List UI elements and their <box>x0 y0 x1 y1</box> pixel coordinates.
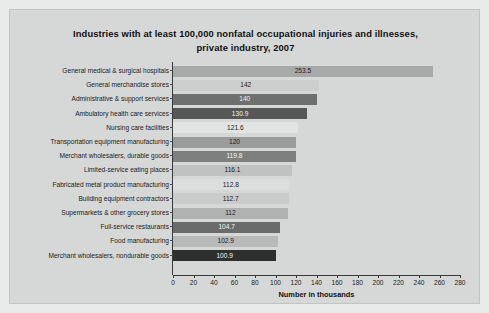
category-label: Full-service restaurants <box>10 220 169 234</box>
category-label: Transportation equipment manufacturing <box>10 135 169 149</box>
chart-bar-row: Transportation equipment manufacturing12… <box>10 135 481 149</box>
chart-bar-row: Nursing care facilities121.6 <box>10 121 481 135</box>
bar-value-label: 121.6 <box>173 121 298 135</box>
category-label: Limited-service eating places <box>10 163 169 177</box>
x-axis-tick-mark <box>235 275 236 278</box>
chart-bar-row: Administrative & support services140 <box>10 92 481 106</box>
x-axis-tick-mark <box>378 275 379 278</box>
x-axis-tick-mark <box>296 275 297 278</box>
bar-value-label: 112.8 <box>173 178 289 192</box>
x-axis-tick-mark <box>337 275 338 278</box>
category-label: Fabricated metal product manufacturing <box>10 178 169 192</box>
bar-value-label: 140 <box>173 92 317 106</box>
category-label: Merchant wholesalers, durable goods <box>10 149 169 163</box>
category-label: Nursing care facilities <box>10 121 169 135</box>
x-axis-tick-mark <box>255 275 256 278</box>
bar-value-label: 100.9 <box>173 249 276 263</box>
chart-title: Industries with at least 100,000 nonfata… <box>10 27 481 54</box>
category-label: Building equipment contractors <box>10 192 169 206</box>
x-axis-tick-mark <box>460 275 461 278</box>
x-axis-tick-mark <box>419 275 420 278</box>
category-label: General merchandise stores <box>10 78 169 92</box>
category-label: Ambulatory health care services <box>10 107 169 121</box>
bar-value-label: 102.9 <box>173 234 278 248</box>
bar-value-label: 119.8 <box>173 149 296 163</box>
x-axis-tick-mark <box>194 275 195 278</box>
chart-title-line-2: private industry, 2007 <box>10 41 481 55</box>
bar-value-label: 253.5 <box>173 64 433 78</box>
x-axis-tick-mark <box>358 275 359 278</box>
x-axis-tick-mark <box>440 275 441 278</box>
bar-value-label: 104.7 <box>173 220 280 234</box>
chart-title-line-1: Industries with at least 100,000 nonfata… <box>10 27 481 41</box>
plot-area: General medical & surgical hospitals253.… <box>10 62 481 305</box>
bar-value-label: 142 <box>173 78 319 92</box>
x-axis-title: Number in thousands <box>173 290 460 299</box>
bar-value-label: 112 <box>173 206 288 220</box>
x-axis-tick-mark <box>399 275 400 278</box>
chart-bar-row: Merchant wholesalers, durable goods119.8 <box>10 149 481 163</box>
chart-bar-row: General medical & surgical hospitals253.… <box>10 64 481 78</box>
screenshot-root: Industries with at least 100,000 nonfata… <box>0 0 489 313</box>
category-label: Merchant wholesalers, nondurable goods <box>10 249 169 263</box>
chart-bar-row: Merchant wholesalers, nondurable goods10… <box>10 249 481 263</box>
x-axis-tick-label: 280 <box>448 279 472 286</box>
chart-bar-row: Supermarkets & other grocery stores112 <box>10 206 481 220</box>
chart-bar-row: Ambulatory health care services130.9 <box>10 107 481 121</box>
x-axis-tick-mark <box>317 275 318 278</box>
bar-value-label: 112.7 <box>173 192 289 206</box>
chart-bar-row: Food manufacturing102.9 <box>10 234 481 248</box>
category-label: Food manufacturing <box>10 234 169 248</box>
category-label: Supermarkets & other grocery stores <box>10 206 169 220</box>
chart-bar-row: Full-service restaurants104.7 <box>10 220 481 234</box>
chart-bar-row: Limited-service eating places116.1 <box>10 163 481 177</box>
chart-bar-row: Building equipment contractors112.7 <box>10 192 481 206</box>
x-axis-tick-mark <box>214 275 215 278</box>
category-label: Administrative & support services <box>10 92 169 106</box>
category-label: General medical & surgical hospitals <box>10 64 169 78</box>
x-axis-tick-mark <box>173 275 174 278</box>
bar-value-label: 130.9 <box>173 107 307 121</box>
x-axis-tick-mark <box>276 275 277 278</box>
chart-bar-row: General merchandise stores142 <box>10 78 481 92</box>
chart-container: Industries with at least 100,000 nonfata… <box>9 9 480 304</box>
bar-value-label: 116.1 <box>173 163 292 177</box>
chart-bar-row: Fabricated metal product manufacturing11… <box>10 178 481 192</box>
bar-value-label: 120 <box>173 135 296 149</box>
